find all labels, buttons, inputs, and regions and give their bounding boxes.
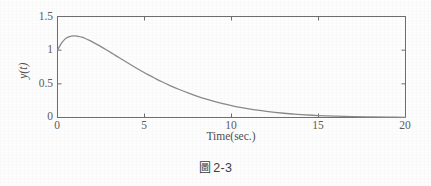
x-tick-label-3: 15 [312,120,324,132]
figure-caption-symbol: 圖 [199,161,211,175]
y-tick-label-0: 0 [24,111,53,123]
series-group [58,36,406,117]
plot-frame [58,17,406,118]
y-tick-label-3: 1.5 [24,11,53,23]
x-tick-label-1: 5 [141,120,147,132]
plot-area: 0 5 10 15 20 0 0.5 1 1.5 Time(sec.) y(t) [0,0,431,150]
y-tick-label-1: 0.5 [24,78,53,90]
x-tick-label-0: 0 [54,120,60,132]
figure-container: 0 5 10 15 20 0 0.5 1 1.5 Time(sec.) y(t)… [0,0,431,186]
y-tick-label-2: 1 [24,44,53,56]
chart-canvas [0,0,431,150]
x-axis-title: Time(sec.) [206,131,255,143]
y-axis-title: y(t) [18,65,30,79]
figure-caption: 圖2-3 [0,158,431,175]
line-series-y-of-t [58,36,406,117]
figure-caption-number: 2-3 [213,161,232,175]
tick-marks [58,17,406,118]
x-tick-label-4: 20 [399,120,411,132]
